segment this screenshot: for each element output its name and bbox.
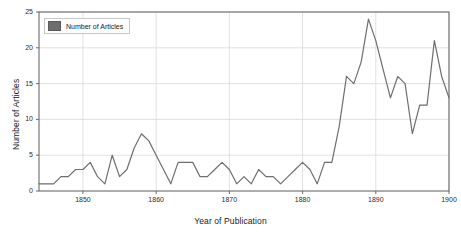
x-tick-label: 1850 (63, 196, 103, 203)
y-tick-label: 5 (9, 151, 33, 158)
chart-legend: Number of Articles (44, 18, 130, 34)
y-tick-label: 15 (9, 80, 33, 87)
x-tick-label: 1860 (136, 196, 176, 203)
x-tick-label: 1900 (429, 196, 461, 203)
x-tick-label: 1890 (356, 196, 396, 203)
x-axis-title: Year of Publication (0, 216, 461, 226)
plot-background (39, 12, 449, 191)
x-tick-label: 1880 (283, 196, 323, 203)
x-tick-label: 1870 (209, 196, 249, 203)
y-tick-label: 20 (9, 44, 33, 51)
chart-container: Number of Articles Number of Articles Ye… (0, 0, 461, 235)
y-axis-title: Number of Articles (11, 79, 21, 150)
y-tick-label: 25 (9, 8, 33, 15)
y-tick-label: 10 (9, 115, 33, 122)
legend-swatch-icon (48, 21, 61, 31)
y-tick-label: 0 (9, 187, 33, 194)
legend-entry-label: Number of Articles (66, 23, 123, 30)
